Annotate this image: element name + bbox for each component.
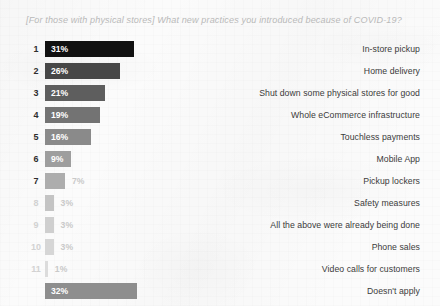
bar-track: 19% [45,107,295,123]
category-label: All the above were already being done [270,217,420,233]
rank-number: 3 [30,85,42,101]
bar-value-label: 7% [72,173,84,189]
category-label: Doesn't apply [367,283,420,299]
table-row: 131%In-store pickup [0,41,440,63]
rank-number: 5 [30,129,42,145]
table-row: 111%Video calls for customers [0,261,440,283]
bar-track: 1% [45,261,295,277]
bar [45,261,48,277]
bar-value-label: 3% [61,217,73,233]
bar-value-label: 31% [51,41,68,57]
bar-track: 7% [45,173,295,189]
bar-value-label: 9% [51,151,63,167]
rank-number: 1 [30,41,42,57]
category-label: Video calls for customers [322,261,420,277]
bar-chart-rows: 131%In-store pickup226%Home delivery321%… [0,41,440,305]
rank-number: 7 [30,173,42,189]
bar [45,239,54,255]
rank-number: 10 [30,239,42,255]
bar-track: 3% [45,217,295,233]
rank-number: 8 [30,195,42,211]
rank-number: 6 [30,151,42,167]
bar-value-label: 16% [51,129,68,145]
survey-chart-slide: [For those with physical stores] What ne… [0,0,440,306]
table-row: 321%Shut down some physical stores for g… [0,85,440,107]
table-row: 226%Home delivery [0,63,440,85]
table-row: 32%Doesn't apply [0,283,440,305]
category-label: In-store pickup [362,41,420,57]
bar [45,195,54,211]
bar-track: 32% [45,283,295,299]
bar-track: 26% [45,63,295,79]
category-label: Whole eCommerce infrastructure [291,107,420,123]
table-row: 516%Touchless payments [0,129,440,151]
bar-value-label: 21% [51,85,68,101]
bar [45,173,65,189]
table-row: 419%Whole eCommerce infrastructure [0,107,440,129]
table-row: 69%Mobile App [0,151,440,173]
table-row: 103%Phone sales [0,239,440,261]
bar-track: 16% [45,129,295,145]
bar-value-label: 3% [61,239,73,255]
rank-number: 2 [30,63,42,79]
table-row: 83%Safety measures [0,195,440,217]
category-label: Mobile App [377,151,420,167]
bar-track: 3% [45,239,295,255]
category-label: Phone sales [372,239,420,255]
chart-title: [For those with physical stores] What ne… [26,15,426,25]
table-row: 77%Pickup lockers [0,173,440,195]
bar-track: 21% [45,85,295,101]
category-label: Touchless payments [340,129,420,145]
rank-number: 9 [30,217,42,233]
category-label: Pickup lockers [363,173,420,189]
table-row: 93%All the above were already being done [0,217,440,239]
category-label: Home delivery [364,63,420,79]
bar-track: 31% [45,41,295,57]
bar-track: 3% [45,195,295,211]
bar-track: 9% [45,151,295,167]
category-label: Shut down some physical stores for good [259,85,420,101]
rank-number: 4 [30,107,42,123]
category-label: Safety measures [354,195,420,211]
rank-number: 11 [30,261,42,277]
bar-value-label: 26% [51,63,68,79]
bar-value-label: 32% [51,283,68,299]
bar [45,217,54,233]
rank-number [30,283,42,299]
bar-value-label: 1% [55,261,67,277]
bar-value-label: 19% [51,107,68,123]
bar-value-label: 3% [61,195,73,211]
